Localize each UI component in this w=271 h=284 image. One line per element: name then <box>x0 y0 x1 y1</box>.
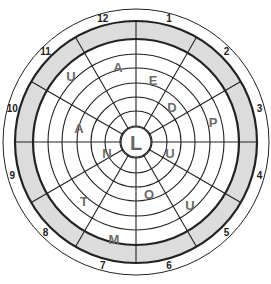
cell-letter: M <box>109 232 120 247</box>
cell-letter: E <box>149 73 158 88</box>
sector-number-12: 12 <box>97 13 109 24</box>
sector-number-9: 9 <box>10 170 16 181</box>
cell-letter: N <box>102 146 111 161</box>
cell-letter: D <box>167 100 176 115</box>
cell-letter: O <box>144 187 154 202</box>
cell-letter: U <box>66 69 75 84</box>
cell-letter: A <box>113 60 123 75</box>
sector-number-4: 4 <box>257 170 263 181</box>
sector-number-6: 6 <box>166 260 172 271</box>
sector-number-7: 7 <box>100 260 106 271</box>
sector-number-1: 1 <box>166 13 172 24</box>
circular-word-puzzle: 123456789101112 AUEDPANUOUTM L <box>0 0 271 284</box>
sector-number-8: 8 <box>43 227 49 238</box>
cell-letter: P <box>209 115 218 130</box>
sector-number-11: 11 <box>40 46 51 57</box>
cell-letter: U <box>165 146 174 161</box>
cell-letter: T <box>80 194 88 209</box>
cell-letter: U <box>185 198 194 213</box>
sector-number-3: 3 <box>257 103 263 114</box>
sector-number-10: 10 <box>7 103 19 114</box>
center-letter: L <box>130 132 142 154</box>
sector-number-2: 2 <box>224 46 230 57</box>
sector-number-5: 5 <box>224 227 230 238</box>
cell-letter: A <box>74 121 84 136</box>
